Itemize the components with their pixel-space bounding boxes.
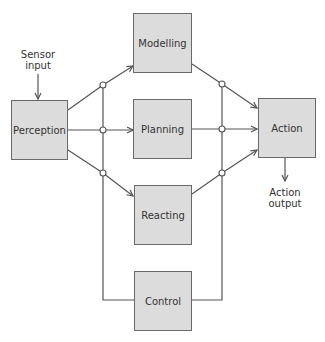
perception-node: Perception [11, 100, 68, 160]
modelling-node: Modelling [133, 13, 192, 73]
sensor-input-line2: input [13, 60, 63, 71]
action-output-label: Action output [260, 187, 310, 209]
reacting-node: Reacting [134, 185, 192, 245]
action-label: Action [271, 123, 302, 134]
action-output-line1: Action [260, 187, 310, 198]
action-output-line2: output [260, 198, 310, 209]
sensor-input-label: Sensor input [13, 49, 63, 71]
planning-node: Planning [133, 99, 192, 159]
perception-label: Perception [13, 125, 66, 136]
action-node: Action [258, 98, 316, 158]
reacting-label: Reacting [141, 210, 185, 221]
sensor-input-line1: Sensor [13, 49, 63, 60]
planning-label: Planning [141, 124, 184, 135]
modelling-label: Modelling [138, 38, 186, 49]
control-node: Control [134, 271, 192, 331]
control-label: Control [145, 296, 181, 307]
